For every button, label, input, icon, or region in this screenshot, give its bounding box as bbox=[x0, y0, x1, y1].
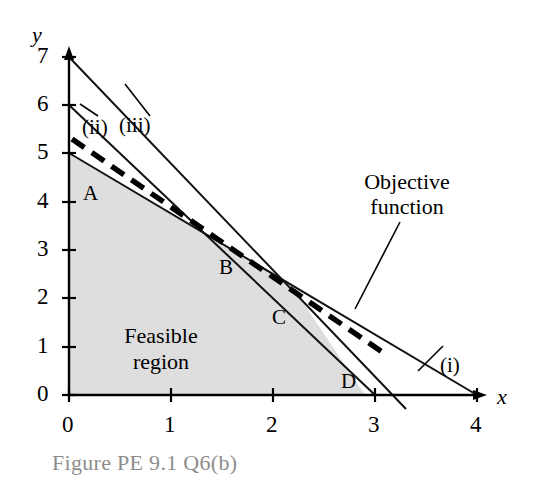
line-label-ii: (ii) bbox=[82, 115, 108, 140]
objective-function-label-line1: Objective bbox=[358, 169, 456, 194]
y-tick-label-2: 2 bbox=[37, 285, 49, 308]
line-label-iii: (iii) bbox=[119, 113, 151, 138]
vertex-label-c: C bbox=[272, 305, 286, 330]
x-tick-label-4: 4 bbox=[470, 413, 482, 436]
x-axis-arrowhead bbox=[473, 390, 487, 400]
feasible-region-label: Feasible region bbox=[106, 323, 216, 375]
vertex-label-b: B bbox=[219, 255, 233, 280]
x-tick-label-1: 1 bbox=[164, 413, 176, 436]
vertex-label-a: A bbox=[83, 181, 98, 206]
y-tick-label-5: 5 bbox=[37, 140, 49, 163]
x-tick-label-2: 2 bbox=[266, 413, 278, 436]
x-tick-label-0: 0 bbox=[62, 413, 74, 436]
x-axis-label: x bbox=[497, 384, 507, 410]
objective-function-leader bbox=[355, 222, 400, 309]
objective-function-label-line2: function bbox=[358, 194, 456, 219]
y-tick-label-7: 7 bbox=[37, 44, 49, 67]
y-tick-label-4: 4 bbox=[37, 189, 49, 212]
vertex-label-d: D bbox=[341, 369, 356, 394]
line-iii-leader bbox=[125, 84, 150, 116]
y-tick-label-6: 6 bbox=[37, 92, 49, 115]
y-tick-label-1: 1 bbox=[37, 334, 49, 357]
objective-function-label: Objective function bbox=[358, 169, 456, 220]
feasible-region-label-line2: region bbox=[106, 349, 216, 375]
y-tick-label-3: 3 bbox=[37, 237, 49, 260]
y-tick-label-0: 0 bbox=[37, 382, 49, 405]
x-tick-label-3: 3 bbox=[368, 413, 380, 436]
feasible-region-label-line1: Feasible bbox=[106, 323, 216, 349]
figure-container: y x 7 6 5 4 3 2 1 0 0 1 2 3 4 (ii) (iii)… bbox=[0, 0, 537, 484]
line-label-i: (i) bbox=[440, 353, 460, 378]
figure-caption: Figure PE 9.1 Q6(b) bbox=[52, 450, 237, 476]
